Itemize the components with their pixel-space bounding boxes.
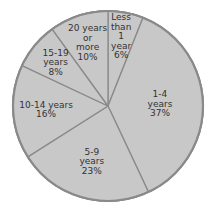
slice-label: 15-19years8% (43, 48, 69, 77)
slice-label-line: 23% (79, 166, 104, 176)
slice-label-line: 10% (68, 53, 107, 63)
slice-label-line: 8% (43, 67, 69, 77)
slice-label-line: 16% (19, 110, 73, 120)
slice-label: Lessthan1year6% (111, 13, 131, 61)
slice-label: 1-4years37% (148, 90, 173, 119)
slice-label: 10-14 years16% (19, 100, 73, 119)
slice-label: 5-9years23% (79, 147, 104, 176)
slice-label-line: 37% (148, 109, 173, 119)
slice-label: 20 yearsormore10% (68, 24, 107, 62)
slice-label-line: 6% (111, 51, 131, 61)
